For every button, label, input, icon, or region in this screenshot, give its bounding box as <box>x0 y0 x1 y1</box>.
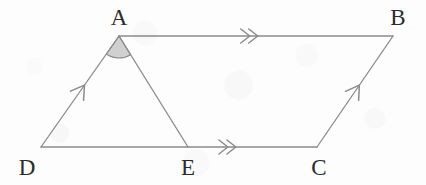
geometry-figure <box>0 0 426 185</box>
segment-layer <box>41 36 393 147</box>
vertex-label-a: A <box>111 6 128 29</box>
angle-mark-layer <box>106 36 130 58</box>
vertex-label-c: C <box>311 156 326 179</box>
angle-mark-a <box>106 36 130 58</box>
segment-cb <box>317 36 393 147</box>
vertex-label-d: D <box>19 156 36 179</box>
segment-da <box>41 36 119 147</box>
segment-ae <box>119 36 188 147</box>
vertex-label-b: B <box>390 6 405 29</box>
vertex-label-e: E <box>181 156 195 179</box>
diagram-canvas: ABCDE <box>0 0 426 185</box>
